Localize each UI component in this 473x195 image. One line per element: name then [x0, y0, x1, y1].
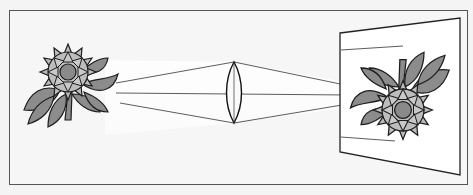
lens-diagram	[0, 0, 473, 195]
light-beam-left	[105, 60, 234, 135]
